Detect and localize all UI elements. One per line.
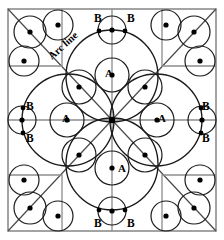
dot-diag-tl — [76, 84, 81, 89]
dot-b-left-center — [19, 117, 24, 122]
dot-b-top-center — [109, 27, 114, 32]
label-b-left-lower: B — [26, 132, 34, 144]
dot-corner-br-diag — [191, 205, 196, 210]
dot-corner-tl-top — [55, 22, 60, 27]
dot-corner-br-right — [197, 177, 202, 182]
geometric-diagram: AAAABBBBBBBB Arc line — [0, 0, 224, 240]
label-b-bottom-left: B — [94, 217, 102, 229]
label-a-right: A — [158, 112, 166, 124]
dot-corner-bl-left — [21, 177, 26, 182]
dot-diag-br — [142, 152, 147, 157]
dot-corner-br-bottom — [163, 213, 168, 218]
dot-a-bottom — [109, 165, 114, 170]
dot-b-left-upper — [21, 106, 26, 111]
dot-corner-tr-top — [163, 22, 168, 27]
label-a-top: A — [105, 67, 113, 79]
dot-corner-tl-diag — [27, 29, 32, 34]
dot-b-top-right — [123, 29, 128, 34]
dot-diag-tr — [142, 84, 147, 89]
dot-corner-bl-bottom — [55, 213, 60, 218]
label-a-bottom: A — [118, 162, 126, 174]
label-b-right-upper: B — [202, 100, 210, 112]
dot-diag-bl — [76, 152, 81, 157]
dot-b-bottom-right — [123, 208, 128, 213]
label-b-bottom-right: B — [127, 217, 135, 229]
label-b-top-left: B — [94, 12, 102, 24]
dot-corner-bl-diag — [27, 205, 32, 210]
label-a-left: A — [62, 112, 70, 124]
dot-b-bottom-left — [97, 208, 102, 213]
dot-b-left-lower — [21, 131, 26, 136]
label-b-right-lower: B — [202, 132, 210, 144]
dot-center — [109, 117, 115, 123]
label-b-left-upper: B — [26, 100, 34, 112]
label-b-top-right: B — [127, 12, 135, 24]
dot-b-right-center — [199, 117, 204, 122]
dot-corner-tr-diag — [191, 29, 196, 34]
dot-b-bottom-center — [109, 208, 114, 213]
dot-corner-tr-right — [197, 58, 202, 63]
dot-corner-tl-left — [21, 58, 26, 63]
dot-b-top-left — [97, 29, 102, 34]
